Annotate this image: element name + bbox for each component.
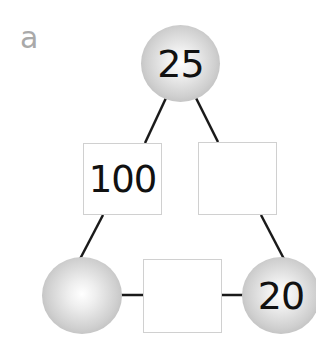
line-top-to-right-box (196, 98, 218, 142)
line-right-box-to-bottom-right (261, 215, 284, 259)
left-box[interactable]: 100 (83, 143, 162, 215)
bottom-box[interactable] (143, 259, 222, 333)
left-box-value: 100 (89, 158, 157, 201)
bottom-right-circle-value: 20 (258, 274, 304, 318)
bottom-left-circle[interactable] (42, 257, 122, 334)
right-box[interactable] (198, 142, 277, 215)
top-circle-value: 25 (157, 42, 203, 86)
line-top-to-left-box (145, 98, 166, 143)
line-left-box-to-bottom-left (80, 215, 103, 259)
top-circle: 25 (141, 25, 220, 102)
bottom-right-circle: 20 (242, 257, 316, 334)
